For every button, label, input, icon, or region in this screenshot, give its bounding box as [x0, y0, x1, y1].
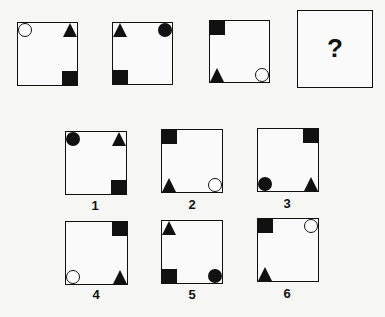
- open-circle-icon: [255, 68, 269, 82]
- option-box-1[interactable]: [65, 131, 127, 195]
- triangle-icon: [113, 23, 127, 37]
- triangle-icon: [162, 221, 176, 235]
- square-icon: [62, 71, 77, 85]
- option-box-5[interactable]: [161, 220, 223, 284]
- sequence-box-3: [209, 20, 270, 83]
- triangle-icon: [258, 267, 272, 281]
- triangle-icon: [112, 132, 126, 146]
- square-icon: [162, 269, 177, 283]
- option-box-3[interactable]: [257, 128, 319, 192]
- option-box-6[interactable]: [257, 218, 319, 282]
- option-label-2: 2: [177, 197, 207, 212]
- square-icon: [258, 219, 273, 233]
- option-box-2[interactable]: [161, 129, 223, 193]
- option-box-4[interactable]: [65, 221, 128, 285]
- option-label-4: 4: [81, 287, 111, 302]
- open-circle-icon: [304, 219, 318, 233]
- square-icon: [210, 21, 225, 35]
- option-label-1: 1: [80, 198, 110, 213]
- filled-circle-icon: [208, 269, 222, 283]
- sequence-box-1: [17, 22, 78, 86]
- square-icon: [112, 222, 127, 236]
- filled-circle-icon: [66, 132, 80, 146]
- triangle-icon: [210, 68, 224, 82]
- question-mark: ?: [298, 33, 372, 64]
- triangle-icon: [162, 178, 176, 192]
- square-icon: [303, 129, 318, 143]
- triangle-icon: [113, 270, 127, 284]
- square-icon: [111, 180, 126, 194]
- option-label-6: 6: [272, 286, 302, 301]
- sequence-box-unknown: ?: [297, 10, 373, 88]
- open-circle-icon: [208, 178, 222, 192]
- filled-circle-icon: [158, 23, 172, 37]
- sequence-box-2: [112, 22, 173, 85]
- square-icon: [113, 70, 128, 84]
- square-icon: [162, 130, 177, 144]
- triangle-icon: [304, 177, 318, 191]
- triangle-icon: [63, 23, 77, 37]
- open-circle-icon: [66, 270, 80, 284]
- open-circle-icon: [18, 23, 32, 37]
- option-label-5: 5: [177, 287, 207, 302]
- filled-circle-icon: [258, 177, 272, 191]
- option-label-3: 3: [272, 196, 302, 211]
